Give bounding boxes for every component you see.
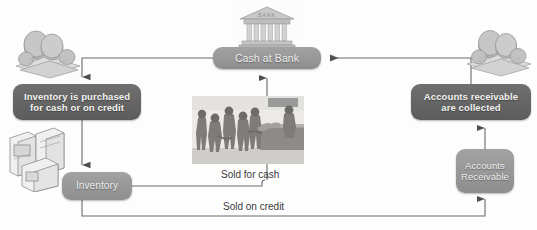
node-accounts-receivable-line1: Accounts <box>461 160 509 171</box>
connector-inventory-to-cash <box>132 180 265 186</box>
diagram-canvas: BANK <box>0 0 537 230</box>
customers-at-checkout-photo <box>192 96 304 164</box>
node-inventory-label: Inventory <box>76 180 118 192</box>
svg-text:BANK: BANK <box>258 12 276 18</box>
node-accounts-receivable-line2: Receivable <box>461 171 509 182</box>
appliance-boxes-icon <box>6 126 68 192</box>
node-cash-at-bank-label: Cash at Bank <box>235 52 299 64</box>
caption-sold-for-cash: Sold for cash <box>221 169 279 180</box>
node-inventory-purchased-line2: for cash or on credit <box>24 102 130 113</box>
node-accounts-receivable[interactable]: Accounts Receivable <box>456 149 514 193</box>
connector-collected-to-cash <box>330 58 471 84</box>
coins-and-banknotes-icon <box>464 26 534 78</box>
bank-building-icon: BANK <box>236 4 298 50</box>
connector-cash-to-inventory-purchased <box>82 58 213 77</box>
node-inventory[interactable]: Inventory <box>62 172 132 200</box>
caption-sold-on-credit: Sold on credit <box>223 201 284 212</box>
coins-and-banknotes-icon <box>12 26 84 80</box>
node-accounts-receivable-collected-line1: Accounts receivable <box>424 91 518 102</box>
node-accounts-receivable-collected[interactable]: Accounts receivable are collected <box>411 84 531 120</box>
node-cash-at-bank[interactable]: Cash at Bank <box>213 47 321 69</box>
node-inventory-purchased[interactable]: Inventory is purchased for cash or on cr… <box>13 84 141 120</box>
node-inventory-purchased-line1: Inventory is purchased <box>24 91 130 102</box>
node-accounts-receivable-collected-line2: are collected <box>424 102 518 113</box>
